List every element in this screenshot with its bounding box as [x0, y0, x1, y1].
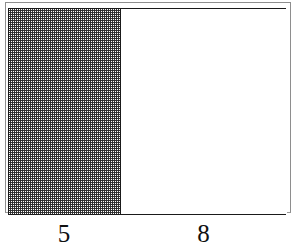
dimension-labels-row: 5 8: [8, 219, 286, 249]
rectangle-outline: [8, 8, 286, 215]
figure-root: 5 8: [0, 0, 294, 249]
shaded-left-region: [9, 9, 121, 214]
left-region-width-label: 5: [8, 219, 120, 249]
plain-right-region: [122, 9, 287, 214]
right-region-width-label: 8: [121, 219, 286, 249]
